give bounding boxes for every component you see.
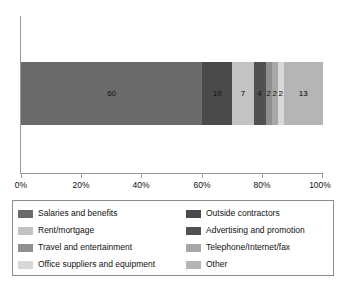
legend-item-advertising-and-promotion[interactable]: Advertising and promotion	[186, 222, 333, 239]
x-axis-tick	[262, 174, 263, 178]
legend-item-salaries-and-benefits[interactable]: Salaries and benefits	[18, 205, 186, 222]
legend-item-travel-and-entertainment[interactable]: Travel and entertainment	[18, 239, 186, 256]
stacked-bar: 60 10 7 4 2 2 2 13	[21, 62, 323, 125]
legend-label: Advertising and promotion	[206, 226, 305, 235]
legend-swatch-icon	[18, 210, 33, 218]
legend-label: Travel and entertainment	[38, 243, 132, 252]
chart-figure: 60 10 7 4 2 2 2 13 0%	[0, 0, 347, 286]
x-axis-label-20: 20%	[72, 180, 89, 190]
x-axis-line	[20, 173, 323, 174]
chart-legend: Salaries and benefits Outside contractor…	[12, 200, 334, 276]
legend-item-office-suppliers-and-equipment[interactable]: Office suppliers and equipment	[18, 256, 186, 273]
x-axis-label-60: 60%	[193, 180, 210, 190]
x-axis-tick	[81, 174, 82, 178]
legend-label: Telephone/Internet/fax	[206, 243, 290, 252]
legend-item-rent-mortgage[interactable]: Rent/mortgage	[18, 222, 186, 239]
legend-swatch-icon	[18, 244, 33, 252]
bar-segment-value-office: 2	[278, 90, 282, 98]
bar-segment-rent-mortgage[interactable]: 7	[232, 62, 253, 125]
bar-segment-value-travel: 2	[266, 90, 270, 98]
legend-swatch-icon	[18, 261, 33, 269]
legend-swatch-icon	[186, 210, 201, 218]
legend-item-outside-contractors[interactable]: Outside contractors	[186, 205, 333, 222]
x-axis-tick	[322, 174, 323, 178]
bar-segment-value-telephone: 2	[272, 90, 276, 98]
bar-segment-advertising-and-promotion[interactable]: 4	[254, 62, 266, 125]
bar-segment-outside-contractors[interactable]: 10	[202, 62, 232, 125]
legend-item-telephone-internet-fax[interactable]: Telephone/Internet/fax	[186, 239, 333, 256]
legend-item-other[interactable]: Other	[186, 256, 333, 273]
legend-label: Office suppliers and equipment	[38, 260, 155, 269]
legend-swatch-icon	[18, 227, 33, 235]
x-axis-label-100: 100%	[309, 180, 331, 190]
x-axis-tick	[202, 174, 203, 178]
bar-segment-value-other: 13	[299, 90, 308, 98]
bar-segment-value-outside-contractors: 10	[213, 90, 222, 98]
bar-segment-salaries-and-benefits[interactable]: 60	[21, 62, 202, 125]
x-axis-label-0: 0%	[15, 180, 27, 190]
bar-segment-value-salaries: 60	[107, 90, 116, 98]
plot-area: 60 10 7 4 2 2 2 13 0%	[20, 16, 323, 173]
legend-label: Outside contractors	[206, 209, 280, 218]
x-axis-label-40: 40%	[132, 180, 149, 190]
bar-segment-other[interactable]: 13	[284, 62, 323, 125]
x-axis-tick	[141, 174, 142, 178]
legend-label: Other	[206, 260, 227, 269]
x-axis-tick	[21, 174, 22, 178]
legend-label: Salaries and benefits	[38, 209, 117, 218]
legend-label: Rent/mortgage	[38, 226, 94, 235]
bar-segment-value-advertising: 4	[257, 90, 261, 98]
legend-swatch-icon	[186, 227, 201, 235]
x-axis-label-80: 80%	[253, 180, 270, 190]
legend-swatch-icon	[186, 261, 201, 269]
legend-swatch-icon	[186, 244, 201, 252]
bar-segment-value-rent: 7	[241, 90, 245, 98]
legend-grid: Salaries and benefits Outside contractor…	[13, 205, 333, 273]
